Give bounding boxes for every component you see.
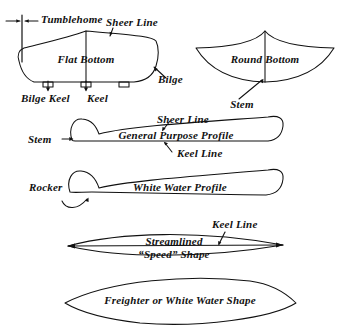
label-freighter-shape-title: Freighter or White Water Shape (104, 295, 255, 306)
label-stem-round-bottom: Stem (230, 99, 253, 110)
stem-leader-head (260, 79, 264, 84)
label-sheer-line-profile: Sheer Line (157, 114, 209, 125)
label-white-water-profile-title: White Water Profile (133, 182, 227, 193)
label-speed-shape-title-line1: Streamlined (145, 236, 202, 247)
label-speed-shape-title-line2: “Speed” Shape (138, 249, 209, 260)
keel-arrow-head (84, 87, 88, 91)
speed-shape-bow-point (68, 244, 75, 249)
speed-shape-stern-point (276, 243, 283, 248)
label-bilge: Bilge (158, 74, 183, 85)
label-flat-bottom-title: Flat Bottom (58, 54, 115, 65)
stem-leader-shaft (239, 80, 262, 99)
diagram-linework (0, 0, 346, 333)
label-round-bottom-title: Round Bottom (231, 54, 300, 65)
label-stem-profile: Stem (28, 134, 51, 145)
bilge-keel-arrow-head (46, 87, 50, 91)
label-keel: Keel (87, 93, 108, 104)
label-keel-line-plan: Keel Line (212, 219, 257, 230)
label-keel-line-profile: Keel Line (177, 148, 222, 159)
tumblehome-arrow-right-head (25, 19, 29, 23)
label-rocker: Rocker (29, 182, 63, 193)
gp-keel-leader-head (164, 142, 168, 146)
label-sheer-line-flat-bottom: Sheer Line (106, 17, 158, 28)
canoe-hull-shapes-diagram: Tumblehome Sheer Line Flat Bottom Bilge … (0, 0, 346, 333)
label-bilge-keel: Bilge Keel (21, 93, 70, 104)
label-tumblehome: Tumblehome (41, 14, 102, 25)
rocker-leader-curve (62, 199, 87, 208)
bilge-keel-strip-right (119, 82, 129, 87)
tumblehome-arrow-left-head (16, 19, 20, 23)
label-general-purpose-profile-title: General Purpose Profile (118, 130, 233, 141)
